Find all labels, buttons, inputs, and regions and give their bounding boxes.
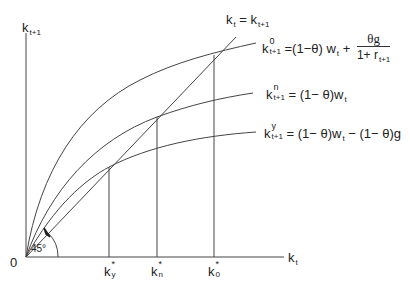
diagonal-label-right-sub: t+1 [258, 20, 269, 29]
curve-old-fraction-den: 1+ rt+1 [357, 47, 390, 64]
curve-old-plus: + [343, 41, 351, 56]
curve-neutral-label-sub: t+1 [274, 94, 285, 102]
diagonal-label: kt = kt+1 [226, 13, 269, 29]
curve-young-label-scripts: yt+1 [271, 126, 287, 139]
curve-neutral-equation-sub: t [344, 95, 346, 104]
y-axis-label: kt+1 [22, 21, 41, 37]
steady-state-ky-scripts: *y [111, 264, 119, 277]
curve-old-label: k0t+1=(1−θ) wt + θg 1+ rt+1 [262, 34, 390, 66]
curve-young [26, 132, 256, 257]
curve-young-equation: = (1− θ)w [287, 126, 342, 141]
x-axis-label: kt [288, 251, 298, 267]
curve-old-equation-sub: t [337, 49, 339, 58]
curve-young-label: kyt+1= (1− θ)wt − (1− θ)g [264, 126, 401, 143]
x-axis-label-main: k [288, 250, 295, 265]
curve-old-fraction-den-sub: t+1 [379, 55, 390, 64]
curve-neutral [26, 93, 253, 257]
origin-label: 0 [10, 256, 17, 269]
curve-young-label-sub: t+1 [272, 133, 283, 141]
diagonal-label-eq: = [239, 12, 247, 27]
curve-old-fraction: θg 1+ rt+1 [357, 32, 390, 64]
steady-state-ky-label: k*y [104, 264, 119, 278]
angle-label: 45° [31, 244, 46, 254]
steady-state-k0-label: k*0 [208, 264, 223, 278]
steady-state-kn-scripts: *n [158, 264, 166, 277]
steady-state-kn-sup: * [159, 260, 163, 269]
y-axis-label-sub: t+1 [30, 28, 41, 37]
curve-old-fraction-num: θg [357, 32, 390, 47]
curve-neutral-label-sup: n [274, 83, 279, 92]
curve-young-equation-tail: − (1− θ)g [345, 126, 401, 141]
steady-state-ky-sub: y [112, 271, 116, 279]
steady-state-k0-scripts: *0 [215, 264, 223, 277]
curve-old-label-sub: t+1 [270, 48, 281, 56]
curve-neutral-equation: = (1− θ)w [289, 87, 344, 102]
steady-state-ky-sup: * [112, 260, 116, 269]
diagonal-label-right: k [251, 12, 258, 27]
curve-old-equation: =(1−θ) w [285, 41, 336, 56]
curve-young-label-sup: y [272, 122, 277, 131]
curve-old-label-scripts: 0t+1 [269, 41, 285, 54]
diagonal-label-left: k [226, 12, 233, 27]
steady-state-kn-label: k*n [151, 264, 166, 278]
diagonal-line [26, 37, 236, 257]
curve-old-fraction-den-main: 1+ r [357, 48, 378, 62]
diagonal-label-left-sub: t [234, 20, 236, 29]
curve-old-label-sup: 0 [270, 37, 275, 46]
x-axis-label-sub: t [296, 258, 298, 267]
curve-neutral-label-scripts: nt+1 [273, 87, 289, 100]
y-axis-label-main: k [22, 20, 29, 35]
steady-state-k0-sub: 0 [216, 271, 220, 279]
curve-neutral-label: knt+1= (1− θ)wt [266, 87, 347, 104]
steady-state-kn-sub: n [159, 271, 163, 279]
curve-old [26, 43, 256, 257]
steady-state-k0-sup: * [216, 260, 220, 269]
